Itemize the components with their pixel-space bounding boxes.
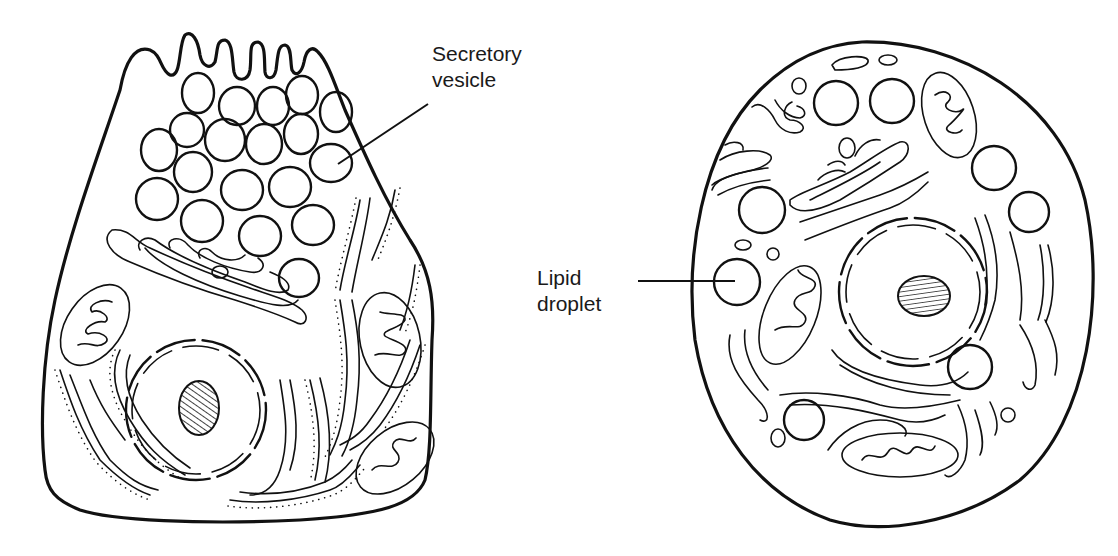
secretory-vesicles bbox=[136, 73, 352, 297]
right-smooth-er bbox=[712, 100, 1057, 477]
lipid-droplet-label: Lipid droplet bbox=[537, 266, 601, 316]
right-cell bbox=[638, 42, 1093, 527]
secretory-vesicle-label-line2: vesicle bbox=[432, 68, 522, 92]
lipid-droplet-label-line1: Lipid bbox=[537, 266, 601, 290]
left-nucleolus bbox=[179, 381, 219, 435]
left-cell bbox=[42, 34, 447, 522]
right-mitochondria bbox=[746, 65, 986, 477]
right-cell-membrane bbox=[692, 42, 1093, 527]
left-cell-membrane bbox=[42, 34, 432, 522]
right-nucleolus bbox=[898, 276, 950, 316]
secretory-vesicle-label-line1: Secretory bbox=[432, 42, 522, 66]
left-nucleus bbox=[126, 340, 266, 480]
lipid-droplet-label-line2: droplet bbox=[537, 292, 601, 316]
left-golgi bbox=[107, 230, 306, 324]
secretory-vesicle-label: Secretory vesicle bbox=[432, 42, 522, 92]
right-nucleus bbox=[839, 218, 987, 366]
